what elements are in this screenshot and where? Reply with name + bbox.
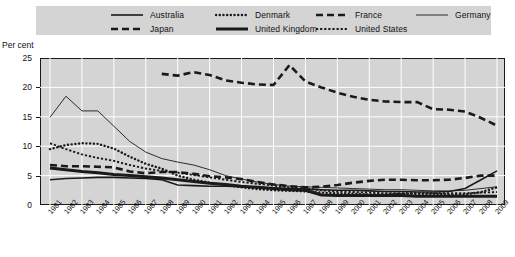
legend-line-swatch-icon [315,23,349,35]
y-tick-label: 10 [2,142,32,150]
chart-legend: AustraliaDenmarkFranceGermany JapanUnite… [36,6,491,35]
y-tick-label: 15 [2,113,32,121]
y-tick-label: 25 [2,54,32,62]
y-tick-mark [36,176,40,177]
y-tick-mark [36,87,40,88]
legend-entry-france[interactable]: France [315,8,382,22]
chart-page: AustraliaDenmarkFranceGermany JapanUnite… [0,0,515,257]
y-axis-units-label: Per cent [2,40,34,50]
legend-entry-united-states[interactable]: United States [315,22,407,36]
legend-row-2: JapanUnited KingdomUnited States [36,22,491,36]
gridlines [40,58,505,205]
y-tick-label: 5 [2,172,32,180]
y-tick-mark [36,117,40,118]
legend-line-swatch-icon [215,9,249,21]
legend-line-swatch-icon [215,23,249,35]
legend-row-1: AustraliaDenmarkFranceGermany [36,8,491,22]
legend-line-swatch-icon [110,9,144,21]
chart-canvas [40,58,505,205]
legend-entry-united-kingdom[interactable]: United Kingdom [215,22,317,36]
legend-label: Japan [150,23,174,35]
legend-line-swatch-icon [110,23,144,35]
legend-entry-germany[interactable]: Germany [415,8,491,22]
y-tick-mark [36,146,40,147]
legend-label: Australia [150,9,184,21]
legend-entry-denmark[interactable]: Denmark [215,8,290,22]
y-tick-label: 0 [2,201,32,209]
legend-label: Denmark [255,9,290,21]
legend-line-swatch-icon [415,9,449,21]
y-tick-label: 20 [2,83,32,91]
legend-label: United States [355,23,407,35]
legend-line-swatch-icon [315,9,349,21]
legend-entry-japan[interactable]: Japan [110,22,174,36]
legend-label: United Kingdom [255,23,317,35]
legend-label: Germany [455,9,491,21]
legend-entry-australia[interactable]: Australia [110,8,184,22]
legend-label: France [355,9,382,21]
